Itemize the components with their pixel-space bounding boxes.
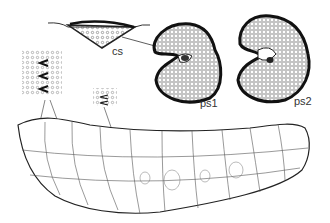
illustration-drawing [0,0,330,223]
posterior-spiracle-1 [154,24,221,102]
spine-detail-left [22,50,62,122]
cross-section [48,22,155,48]
label-cs: cs [112,45,123,57]
larva-body [18,118,309,214]
posterior-spiracle-2 [238,16,309,102]
spine-detail-middle [93,88,117,130]
label-ps1: ps1 [200,97,218,109]
label-ps2: ps2 [294,95,312,107]
